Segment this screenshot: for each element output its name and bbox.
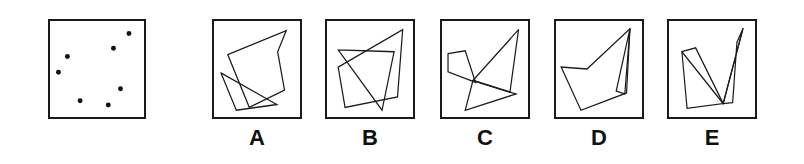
spatial-reasoning-item: A B C D E: [0, 0, 804, 164]
option-b-figure: [327, 21, 413, 117]
dot-3: [65, 54, 70, 59]
dot-5: [118, 86, 123, 91]
b-poly-1: [338, 30, 403, 108]
d-poly-1: [561, 29, 630, 111]
dot-pattern-panel[interactable]: [48, 19, 146, 119]
d-poly-2: [616, 29, 630, 94]
c-poly-2: [448, 51, 476, 83]
option-label-c: C: [440, 125, 530, 151]
option-a-panel[interactable]: [212, 19, 302, 119]
option-group-c[interactable]: C: [440, 19, 530, 119]
a-poly-1: [228, 31, 286, 108]
option-group-e[interactable]: E: [667, 19, 757, 119]
option-d-panel[interactable]: [554, 19, 644, 119]
option-label-b: B: [325, 125, 415, 151]
option-c-figure: [442, 21, 528, 117]
option-label-a: A: [212, 125, 302, 151]
option-d-figure: [556, 21, 642, 117]
dot-7: [106, 103, 111, 108]
option-e-panel[interactable]: [667, 19, 757, 119]
a-poly-2: [221, 73, 277, 110]
dot-2: [111, 46, 116, 51]
dot-1: [127, 31, 132, 36]
option-b-panel[interactable]: [325, 19, 415, 119]
option-group-d[interactable]: D: [554, 19, 644, 119]
dot-6: [78, 98, 83, 103]
option-e-figure: [669, 21, 755, 117]
option-group-b[interactable]: B: [325, 19, 415, 119]
dot-4: [56, 70, 61, 75]
option-a-figure: [214, 21, 300, 117]
option-c-panel[interactable]: [440, 19, 530, 119]
b-poly-2: [338, 50, 394, 110]
dot-pattern-svg: [50, 21, 144, 117]
option-label-d: D: [554, 125, 644, 151]
option-group-a[interactable]: A: [212, 19, 302, 119]
c-poly-3: [465, 81, 516, 111]
option-label-e: E: [667, 125, 757, 151]
